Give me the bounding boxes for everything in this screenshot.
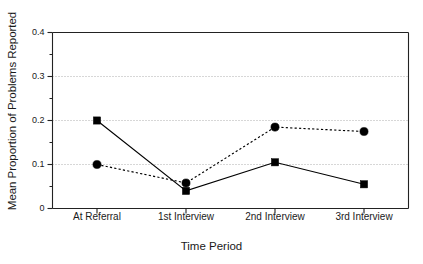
plot-area <box>0 0 423 264</box>
data-point-square[interactable] <box>182 187 189 194</box>
data-point-square[interactable] <box>93 117 100 124</box>
data-point-square[interactable] <box>360 181 367 188</box>
data-point-circle[interactable] <box>182 179 190 187</box>
series-line-0 <box>97 121 364 191</box>
data-point-circle[interactable] <box>271 123 279 131</box>
chart-container: Mean Proportion of Problems Reported Tim… <box>0 0 423 264</box>
data-point-circle[interactable] <box>93 160 101 168</box>
data-point-square[interactable] <box>271 159 278 166</box>
data-point-circle[interactable] <box>360 127 368 135</box>
